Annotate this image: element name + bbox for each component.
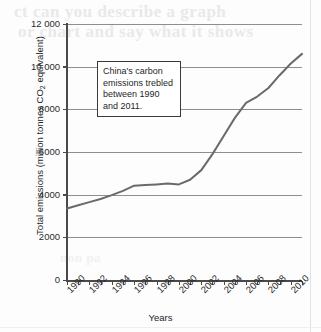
y-axis-title-subscript: 2 bbox=[39, 85, 46, 89]
y-axis-title: Total emissions (million tonnes CO2 equi… bbox=[34, 11, 45, 261]
annotation-line-1: China's carbon bbox=[103, 66, 176, 78]
annotation-line-4: and 2011. bbox=[103, 101, 176, 113]
annotation-callout: China's carbon emissions trebled between… bbox=[97, 61, 181, 117]
annotation-line-3: between 1990 bbox=[103, 89, 176, 101]
annotation-line-2: emissions trebled bbox=[103, 78, 176, 90]
line-chart: 12 00010 00080006000400020000 1990199219… bbox=[0, 0, 321, 332]
y-axis-title-prefix: Total emissions (million tonnes CO bbox=[34, 89, 45, 235]
data-series-layer bbox=[0, 0, 321, 332]
x-axis-title: Years bbox=[0, 312, 321, 323]
page-canvas: ct can you describe a graph or chart and… bbox=[0, 0, 321, 332]
y-axis-title-suffix: equivalent) bbox=[34, 36, 45, 85]
